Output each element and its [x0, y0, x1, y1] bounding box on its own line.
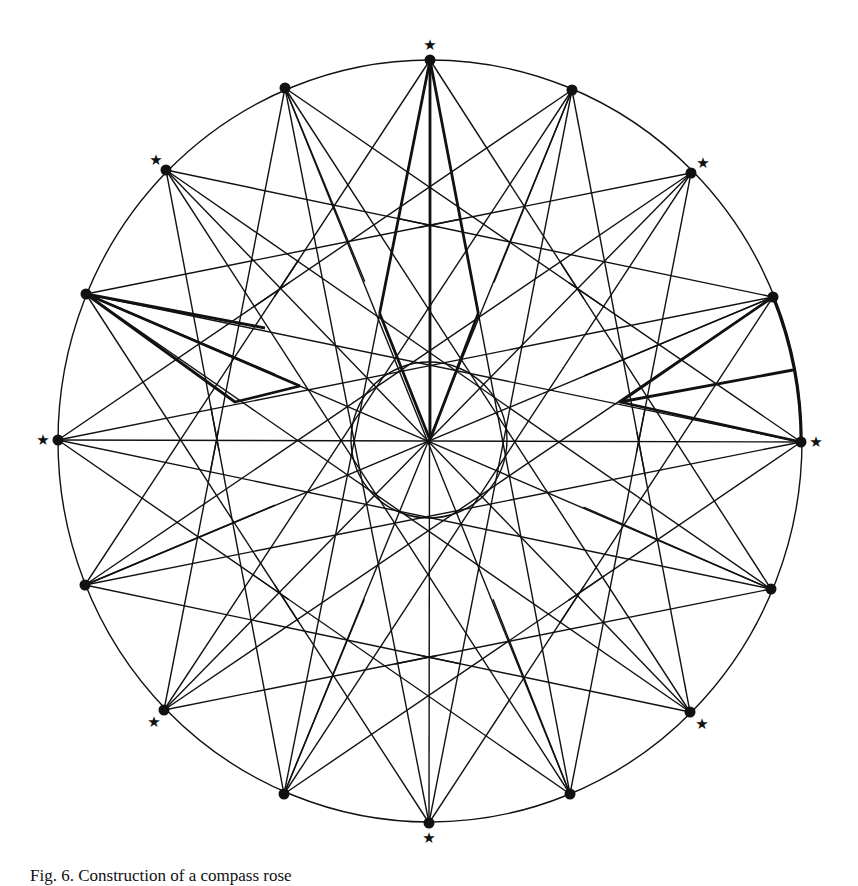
- star-icon: ★: [36, 431, 49, 449]
- star-icon: ★: [695, 715, 708, 733]
- secondary-ray: [583, 507, 771, 589]
- star-icon: ★: [422, 829, 435, 847]
- figure-caption: Fig. 6. Construction of a compass rose: [30, 866, 292, 886]
- secondary-chord: [86, 219, 461, 294]
- east-point-outline: [620, 297, 801, 442]
- point-dot-ne: [686, 168, 697, 179]
- secondary-chord: [560, 261, 771, 589]
- highlighted-outline: [86, 60, 801, 442]
- point-dot-e: [796, 437, 807, 448]
- star-icon: ★: [147, 713, 160, 731]
- point-dot-wsw: [80, 580, 91, 591]
- secondary-chord: [560, 297, 773, 623]
- star-icon: ★: [809, 433, 822, 451]
- point-dot-s: [424, 818, 435, 829]
- secondary-chord: [397, 218, 773, 297]
- point-dot-ene: [768, 292, 779, 303]
- point-dot-nnw: [280, 83, 291, 94]
- secondary-ray: [85, 505, 275, 585]
- main-chord: [58, 297, 773, 440]
- secondary-ray: [584, 297, 773, 376]
- secondary-chord: [285, 88, 605, 307]
- point-dot-se: [685, 707, 696, 718]
- east-point-edge: [620, 370, 793, 402]
- star-icon: ★: [149, 151, 162, 169]
- point-dot-ssw: [279, 789, 290, 800]
- point-dot-n: [425, 55, 436, 66]
- point-dot-wnw: [81, 289, 92, 300]
- point-dot-sse: [565, 789, 576, 800]
- secondary-chord: [570, 409, 645, 794]
- star-icon: ★: [423, 36, 436, 54]
- point-dot-ese: [766, 584, 777, 595]
- secondary-ray: [284, 599, 364, 794]
- secondary-chord: [85, 585, 460, 664]
- east-arc: [773, 297, 801, 442]
- point-dot-nne: [567, 85, 578, 96]
- point-dot-w: [53, 435, 64, 446]
- secondary-chord: [211, 407, 284, 794]
- secondary-ray: [493, 599, 570, 794]
- north-point-edge: [430, 313, 478, 440]
- north-point-edge: [380, 313, 430, 440]
- secondary-chord: [86, 294, 299, 622]
- secondary-ray: [494, 90, 572, 283]
- star-icon: ★: [696, 154, 709, 172]
- secondary-chord: [253, 575, 570, 794]
- secondary-ray: [285, 88, 365, 282]
